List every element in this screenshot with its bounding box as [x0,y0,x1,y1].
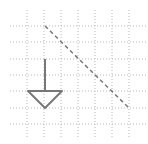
grid-lines [10,10,146,138]
arrow-head-triangle [28,91,62,108]
grid-diagram [0,0,148,144]
